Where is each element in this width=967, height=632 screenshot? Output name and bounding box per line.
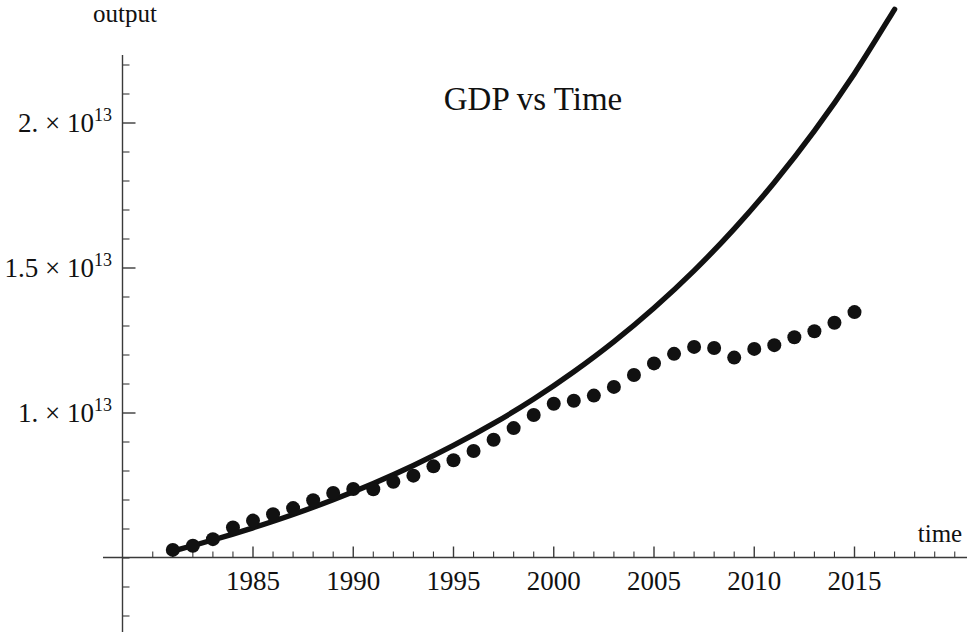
data-point bbox=[346, 482, 360, 496]
data-point bbox=[587, 389, 601, 403]
data-point-group bbox=[166, 305, 862, 557]
data-point bbox=[767, 338, 781, 352]
data-point bbox=[787, 330, 801, 344]
data-point bbox=[667, 347, 681, 361]
data-point bbox=[607, 380, 621, 394]
data-point bbox=[306, 493, 320, 507]
y-axis-label: output bbox=[93, 0, 157, 27]
plot-canvas: 1985199019952000200520102015 1. × 10131.… bbox=[0, 0, 967, 632]
data-point bbox=[687, 340, 701, 354]
y-tick-label: 1.5 × 1013 bbox=[5, 250, 112, 283]
y-tick-label: 2. × 1013 bbox=[18, 105, 112, 138]
data-point bbox=[366, 482, 380, 496]
x-tick-label: 2000 bbox=[527, 566, 581, 596]
y-axis-ticks bbox=[123, 65, 136, 616]
x-tick-label: 2005 bbox=[627, 566, 681, 596]
data-point bbox=[547, 397, 561, 411]
data-point bbox=[406, 469, 420, 483]
data-point bbox=[426, 459, 440, 473]
x-tick-label: 1985 bbox=[226, 566, 280, 596]
data-point bbox=[807, 324, 821, 338]
data-point bbox=[266, 507, 280, 521]
data-point bbox=[487, 433, 501, 447]
x-axis-label: time bbox=[918, 520, 962, 547]
data-point bbox=[527, 408, 541, 422]
data-point bbox=[206, 532, 220, 546]
data-point bbox=[827, 316, 841, 330]
data-point bbox=[627, 368, 641, 382]
axes-group bbox=[103, 55, 967, 632]
data-point bbox=[848, 305, 862, 319]
data-point bbox=[447, 453, 461, 467]
x-axis-tick-labels: 1985199019952000200520102015 bbox=[226, 566, 882, 596]
data-point bbox=[747, 342, 761, 356]
data-point bbox=[186, 539, 200, 553]
x-axis-ticks bbox=[153, 547, 955, 558]
x-tick-label: 2010 bbox=[727, 566, 781, 596]
y-tick-label: 1. × 1013 bbox=[18, 395, 112, 428]
data-point bbox=[567, 394, 581, 408]
data-point bbox=[507, 421, 521, 435]
chart-title: GDP vs Time bbox=[444, 81, 623, 117]
data-point bbox=[166, 543, 180, 557]
data-point bbox=[647, 356, 661, 370]
x-tick-label: 1995 bbox=[427, 566, 481, 596]
data-point bbox=[386, 475, 400, 489]
gdp-vs-time-chart: 1985199019952000200520102015 1. × 10131.… bbox=[0, 0, 967, 632]
data-point bbox=[727, 351, 741, 365]
data-point bbox=[226, 521, 240, 535]
y-axis-tick-labels: 1. × 10131.5 × 10132. × 1013 bbox=[5, 105, 112, 428]
data-point bbox=[246, 514, 260, 528]
data-point bbox=[707, 341, 721, 355]
x-tick-label: 1990 bbox=[326, 566, 380, 596]
data-point bbox=[286, 501, 300, 515]
data-point bbox=[326, 486, 340, 500]
data-point bbox=[467, 444, 481, 458]
x-tick-label: 2015 bbox=[828, 566, 882, 596]
